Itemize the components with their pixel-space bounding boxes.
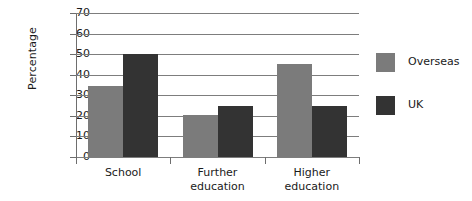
- bar-overseas-school: [88, 86, 123, 157]
- x-axis-tick: [265, 157, 266, 164]
- x-axis-category-label: Highereducation: [264, 166, 360, 194]
- plot-area: [76, 13, 359, 157]
- legend-label-overseas: Overseas: [408, 56, 459, 68]
- legend-item-overseas[interactable]: Overseas: [376, 52, 470, 72]
- bar-uk-further-education: [218, 106, 253, 157]
- legend: Overseas UK: [376, 52, 470, 138]
- x-axis-category-label: School: [75, 166, 171, 180]
- bar-uk-higher-education: [312, 106, 347, 157]
- gridline: [76, 157, 359, 158]
- x-axis-tick: [76, 157, 77, 164]
- legend-swatch-overseas: [376, 53, 395, 72]
- x-axis-tick: [359, 157, 360, 164]
- legend-label-uk: UK: [408, 99, 423, 111]
- bar-overseas-higher-education: [277, 64, 312, 157]
- bar-uk-school: [123, 54, 158, 157]
- bar-chart: Percentage 010203040506070 SchoolFurther…: [0, 0, 472, 201]
- legend-swatch-uk: [376, 96, 395, 115]
- y-axis-title: Percentage: [26, 0, 39, 119]
- x-axis-tick: [170, 157, 171, 164]
- bar-overseas-further-education: [183, 115, 218, 157]
- legend-item-uk[interactable]: UK: [376, 95, 470, 115]
- bars-layer: [76, 13, 359, 157]
- x-axis-category-label: Furthereducation: [170, 166, 266, 194]
